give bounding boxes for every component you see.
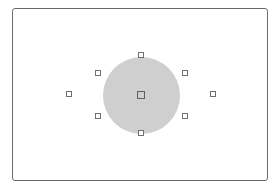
af-point-center — [137, 91, 145, 99]
af-point-upper-left — [95, 70, 101, 76]
af-point-upper-right — [182, 70, 188, 76]
af-point-bottom — [138, 130, 144, 136]
af-point-lower-right — [182, 113, 188, 119]
af-point-far-right — [210, 91, 216, 97]
af-point-lower-left — [95, 113, 101, 119]
af-point-top — [138, 52, 144, 58]
af-point-far-left — [66, 91, 72, 97]
